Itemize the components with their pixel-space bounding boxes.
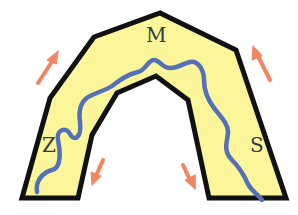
arrow-up-right-icon <box>38 51 58 83</box>
label-right: S <box>250 133 264 157</box>
arrow-down-left-icon <box>91 160 103 185</box>
arrow-down-right-icon <box>183 165 195 189</box>
label-left: Z <box>42 133 56 157</box>
label-top: M <box>146 23 166 47</box>
diagram-canvas: M Z S <box>0 0 298 215</box>
arrow-up-left-icon <box>252 46 270 80</box>
fold-diagram: M Z S <box>0 0 298 215</box>
